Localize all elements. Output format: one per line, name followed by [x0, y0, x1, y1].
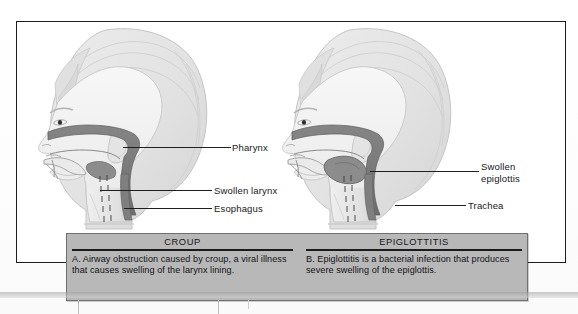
leader-line-pharynx [123, 147, 231, 148]
label-esophagus: Esophagus [214, 203, 263, 215]
scan-tick-mark [78, 300, 79, 314]
label-swollen-epiglottis-line2: epiglottis [481, 173, 520, 184]
caption-table: CROUP A. Airway obstruction caused by cr… [66, 233, 528, 301]
label-pharynx: Pharynx [232, 142, 268, 154]
label-swollen-epiglottis-line1: Swollen [481, 161, 515, 172]
caption-body-epiglottitis: B. Epiglottitis is a bacterial infection… [306, 254, 522, 277]
figure-page: Pharynx Swollen larynx Esophagus Swollen… [0, 0, 578, 314]
caption-body-croup: A. Airway obstruction caused by croup, a… [72, 254, 293, 277]
leader-line-swollen-larynx [100, 190, 212, 191]
caption-heading-epiglottitis: EPIGLOTTITIS [306, 234, 522, 249]
caption-rule-croup [72, 249, 293, 251]
leader-line-trachea [395, 205, 466, 206]
caption-column-croup: CROUP A. Airway obstruction caused by cr… [67, 234, 297, 300]
scan-tick-mark [218, 300, 219, 314]
label-trachea: Trachea [468, 200, 504, 212]
scan-edge-strip [0, 292, 578, 298]
illustration-epiglottitis [272, 24, 487, 234]
caption-column-epiglottitis: EPIGLOTTITIS B. Epiglottitis is a bacter… [297, 234, 527, 300]
leader-line-esophagus [124, 208, 212, 209]
caption-rule-epiglottitis [306, 249, 522, 251]
scan-tick-mark [248, 300, 249, 309]
illustration-croup [28, 24, 243, 234]
label-swollen-epiglottis: Swollen epiglottis [481, 161, 551, 184]
caption-heading-croup: CROUP [72, 234, 293, 249]
leader-line-swollen-epiglottis [370, 171, 479, 172]
label-swollen-larynx: Swollen larynx [214, 185, 277, 197]
